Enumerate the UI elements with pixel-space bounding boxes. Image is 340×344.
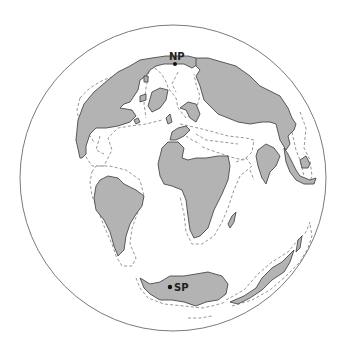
north-pole-dot — [173, 62, 177, 66]
north-pole-label: NP — [169, 51, 185, 62]
land-arctic-islet-3 — [144, 76, 148, 82]
globe-map: NP SP — [0, 0, 340, 344]
south-pole-label: SP — [174, 282, 189, 293]
south-pole-dot — [168, 285, 172, 289]
